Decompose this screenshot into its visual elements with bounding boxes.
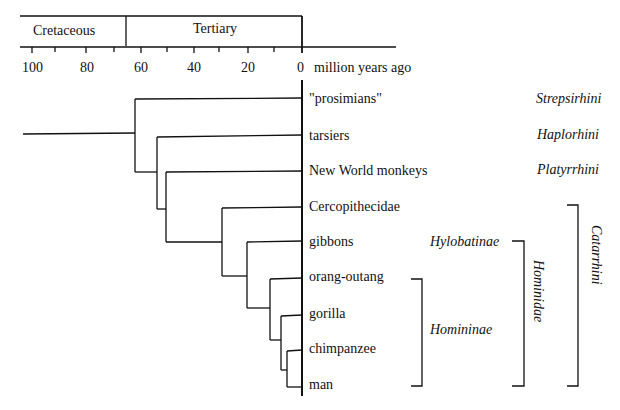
group-platyrrhini: Platyrrhini [537, 162, 599, 178]
group-catarrhini: Catarrhini [588, 225, 604, 285]
leaf-gibbons: gibbons [309, 234, 353, 250]
leaf-tarsiers: tarsiers [309, 128, 349, 144]
group-haplorhini: Haplorhini [537, 127, 599, 143]
group-homininae: Homininae [430, 322, 492, 338]
leaf-cercopithecidae: Cercopithecidae [309, 199, 400, 215]
dendrogram [23, 98, 302, 387]
tick-80: 80 [80, 60, 94, 76]
leaf-man: man [309, 377, 333, 393]
tick-40: 40 [187, 60, 201, 76]
period-tertiary: Tertiary [193, 21, 237, 37]
group-strepsirhini: Strepsirhini [536, 91, 601, 107]
period-cretaceous: Cretaceous [33, 23, 95, 39]
group-hominidae: Hominidae [530, 260, 546, 322]
leaf-orang-outang: orang-outang [309, 269, 384, 285]
brackets [411, 205, 578, 386]
time-axis [20, 47, 396, 53]
tick-100: 100 [22, 60, 43, 76]
tick-20: 20 [241, 60, 255, 76]
leaf-new-world-monkeys: New World monkeys [309, 163, 427, 179]
phylogeny-diagram: Cretaceous Tertiary 100 80 60 40 20 0 mi… [0, 0, 620, 410]
axis-unit-label: million years ago [314, 60, 411, 76]
group-hylobatinae: Hylobatinae [430, 234, 499, 250]
leaf-chimpanzee: chimpanzee [309, 341, 376, 357]
tick-60: 60 [134, 60, 148, 76]
tick-0: 0 [297, 60, 304, 76]
leaf-prosimians: "prosimians" [309, 91, 382, 107]
leaf-gorilla: gorilla [309, 306, 346, 322]
